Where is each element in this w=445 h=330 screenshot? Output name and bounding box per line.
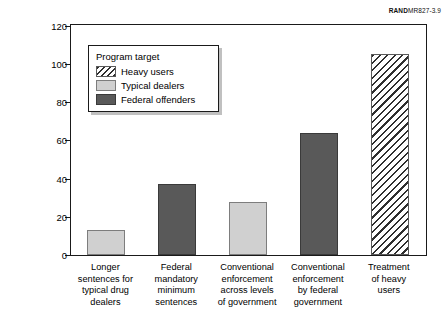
bar-1 [87,230,125,255]
legend: Program target Heavy usersTypical dealer… [88,45,219,112]
x-axis-label-line: by federal [283,285,354,297]
x-axis-label-line: government [283,297,354,309]
y-axis-tick-label: 0 [62,250,67,261]
y-axis-tick-label: 40 [56,173,67,184]
bar-5 [371,54,409,255]
x-axis-label-line: Conventional [212,262,283,274]
legend-label-federal: Federal offenders [121,94,195,105]
x-axis-label-line: Conventional [283,262,354,274]
source-code-label: RANDMR827-3.9 [389,7,441,14]
bar-3 [229,202,267,255]
x-axis-label-4: Conventionalenforcementby federalgovernm… [283,262,354,308]
x-axis-label-2: Federalmandatoryminimumsentences [141,262,212,308]
x-axis-label-line: typical drug [70,285,141,297]
y-axis-tick-label: 20 [56,211,67,222]
legend-label-typical: Typical dealers [121,80,184,91]
source-code-brand: RAND [389,7,408,14]
x-axis-label-line: dealers [70,297,141,309]
x-axis-label-3: Conventionalenforcementacross levelsof g… [212,262,283,308]
x-axis-label-line: enforcement [212,274,283,286]
y-axis-tick-label: 120 [51,20,67,31]
legend-item-federal: Federal offenders [96,94,211,105]
chart-figure: RANDMR827-3.9 Kilograms of cocaine consu… [0,0,445,330]
legend-rows: Heavy usersTypical dealersFederal offend… [96,66,211,105]
x-axis-label-1: Longersentences fortypical drugdealers [70,262,141,308]
x-axis-label-line: of government [212,297,283,309]
x-axis-label-line: mandatory [141,274,212,286]
x-axis-label-line: Treatment [353,262,424,274]
legend-item-heavy: Heavy users [96,66,211,77]
x-axis-label-line: minimum [141,285,212,297]
legend-swatch-heavy [96,66,116,77]
legend-item-typical: Typical dealers [96,80,211,91]
legend-swatch-federal [96,94,116,105]
x-axis-label-line: enforcement [283,274,354,286]
x-axis-label-5: Treatmentof heavyusers [353,262,424,297]
x-axis-label-line: sentences [141,297,212,309]
x-axis-label-line: sentences for [70,274,141,286]
x-axis-label-line: of heavy [353,274,424,286]
source-code-number: MR827-3.9 [408,7,441,14]
x-axis-label-line: users [353,285,424,297]
x-axis-tick-labels: Longersentences fortypical drugdealersFe… [70,262,427,324]
y-axis-title: Kilograms of cocaine consumption reduced… [0,24,34,257]
x-axis-label-line: Longer [70,262,141,274]
legend-swatch-typical [96,80,116,91]
bar-4 [300,133,338,255]
x-axis-label-line: across levels [212,285,283,297]
legend-label-heavy: Heavy users [121,66,174,77]
y-axis-tick-label: 80 [56,97,67,108]
y-axis-tick-label: 60 [56,135,67,146]
x-axis-label-line: Federal [141,262,212,274]
bar-2 [158,184,196,255]
y-axis-tick-label: 100 [51,59,67,70]
legend-title: Program target [96,51,211,62]
